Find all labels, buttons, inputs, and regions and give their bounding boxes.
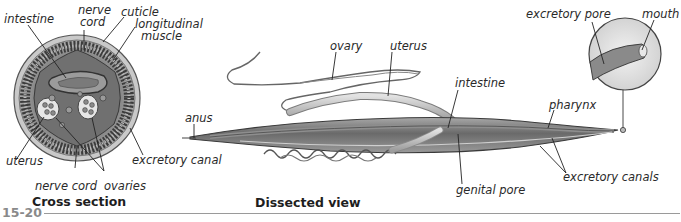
label-genital-pore: genital pore [456,184,525,196]
label-ovary: ovary [330,40,362,52]
label-nerve-cord-bottom: nerve cord [35,180,97,192]
figure-number: 15-20 [2,205,42,220]
label-uterus-cross: uterus [6,155,43,167]
caption-dissected-view: Dissected view [255,195,361,210]
label-uterus-dissected: uterus [390,40,427,52]
label-intestine-dissected: intestine [455,77,505,89]
caption-cross-section: Cross section [32,194,126,209]
label-pharynx: pharynx [549,99,596,111]
label-anus: anus [185,112,213,124]
label-intestine-cross: intestine [4,13,54,25]
label-excretory-pore: excretory pore [526,8,611,20]
cross-section-diagram [14,17,143,171]
label-excretory-canal: excretory canal [132,154,222,166]
label-mouth: mouth [642,8,679,20]
label-excretory-canals: excretory canals [563,171,659,183]
label-longitudinal-2: muscle [141,30,182,42]
label-nerve-cord-top-2: cord [80,16,105,28]
label-ovaries: ovaries [104,180,146,192]
figure-rule [44,213,680,214]
